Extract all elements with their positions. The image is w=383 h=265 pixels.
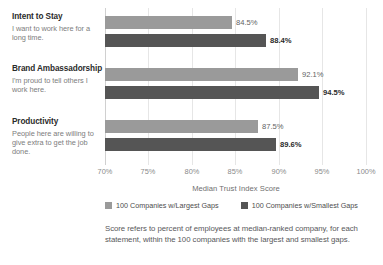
bar-intent-to-stay-largest-gaps: [105, 16, 232, 29]
trust-index-bar-chart: Intent to Stay I want to work here for a…: [0, 0, 383, 265]
legend-label-largest-gaps: 100 Companies w/Largest Gaps: [116, 201, 219, 210]
bar-productivity-largest-gaps: [105, 120, 258, 133]
bar-value-productivity-smallest-gaps: 89.6%: [280, 138, 302, 151]
category-title: Productivity: [12, 117, 100, 127]
bar-brand-ambassadorship-largest-gaps: [105, 68, 298, 81]
bar-value-brand-ambassadorship-smallest-gaps: 94.5%: [323, 86, 345, 99]
category-description: People here are willing to give extra to…: [12, 129, 100, 157]
chart-footnote: Score refers to percent of employees at …: [105, 224, 375, 245]
legend-label-smallest-gaps: 100 Companies w/Smallest Gaps: [252, 201, 358, 210]
category-label-productivity: Productivity People here are willing to …: [12, 117, 100, 156]
bar-value-intent-to-stay-largest-gaps: 84.5%: [236, 16, 258, 29]
x-tick-90: 90%: [272, 167, 287, 176]
category-title: Brand Ambassadorship: [12, 64, 100, 74]
bar-value-productivity-largest-gaps: 87.5%: [262, 120, 284, 133]
x-tick-85: 85%: [228, 167, 243, 176]
x-tick-75: 75%: [141, 167, 156, 176]
legend-swatch-icon: [105, 202, 112, 209]
legend-item-largest-gaps[interactable]: 100 Companies w/Largest Gaps: [105, 201, 219, 210]
legend-item-smallest-gaps[interactable]: 100 Companies w/Smallest Gaps: [241, 201, 358, 210]
x-tick-70: 70%: [98, 167, 113, 176]
chart-legend: 100 Companies w/Largest Gaps 100 Compani…: [105, 201, 373, 210]
category-title: Intent to Stay: [12, 12, 100, 22]
x-axis-title: Median Trust Index Score: [105, 184, 367, 193]
category-label-intent-to-stay: Intent to Stay I want to work here for a…: [12, 12, 100, 42]
category-label-brand-ambassadorship: Brand Ambassadorship I'm proud to tell o…: [12, 64, 100, 94]
x-tick-100: 100%: [357, 167, 376, 176]
bar-brand-ambassadorship-smallest-gaps: [105, 86, 319, 99]
x-axis-tick-labels: 70% 75% 80% 85% 90% 95% 100%: [105, 167, 367, 181]
x-tick-95: 95%: [315, 167, 330, 176]
bar-value-brand-ambassadorship-largest-gaps: 92.1%: [302, 68, 324, 81]
gridline-100: [366, 8, 367, 165]
bar-value-intent-to-stay-smallest-gaps: 88.4%: [270, 34, 292, 47]
bar-productivity-smallest-gaps: [105, 138, 276, 151]
bar-intent-to-stay-smallest-gaps: [105, 34, 266, 47]
category-description: I want to work here for a long time.: [12, 24, 100, 42]
category-description: I'm proud to tell others I work here.: [12, 76, 100, 94]
legend-swatch-icon: [241, 202, 248, 209]
x-tick-80: 80%: [185, 167, 200, 176]
plot-area: 84.5% 88.4% 92.1% 94.5% 87.5% 89.6%: [105, 8, 367, 165]
